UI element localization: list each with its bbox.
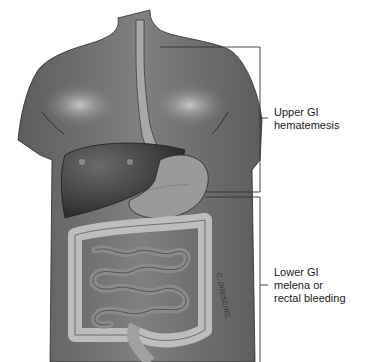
chest-highlight-left [42,83,118,127]
upper-gi-description: hematemesis [274,119,339,132]
lower-gi-line2: rectal bleeding [274,292,346,305]
lower-gi-label: Lower GI melena or rectal bleeding [274,266,346,305]
upper-gi-title: Upper GI [274,106,339,119]
lower-gi-line1: melena or [274,279,346,292]
chest-highlight-right [152,83,228,127]
gi-tract-illustration [0,0,366,362]
lower-gi-title: Lower GI [274,266,346,279]
upper-gi-label: Upper GI hematemesis [274,106,339,132]
